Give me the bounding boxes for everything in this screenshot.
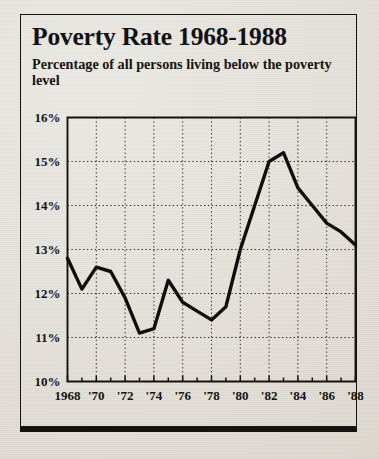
x-tick-label: '70: [88, 388, 105, 403]
x-tick-label: '74: [146, 388, 163, 403]
x-tick-label: '88: [347, 388, 364, 403]
y-tick-label: 14%: [35, 198, 61, 213]
x-tick-label: '82: [261, 388, 278, 403]
x-axis-tick-labels: 1968'70'72'74'76'78'80'82'84'86'88: [55, 388, 365, 403]
y-tick-label: 12%: [35, 286, 61, 301]
y-tick-label: 13%: [35, 242, 61, 257]
y-tick-label: 11%: [35, 330, 60, 345]
y-axis-tick-labels: 10%11%12%13%14%15%16%: [35, 110, 61, 389]
x-tick-label: '84: [290, 388, 307, 403]
x-tick-label: 1968: [55, 388, 82, 403]
y-tick-label: 16%: [35, 110, 61, 125]
y-tick-label: 15%: [35, 154, 61, 169]
x-tick-label: '80: [232, 388, 249, 403]
x-tick-label: '86: [318, 388, 335, 403]
poverty-rate-line-chart: 10%11%12%13%14%15%16% 1968'70'72'74'76'7…: [0, 0, 379, 459]
x-tick-label: '76: [174, 388, 191, 403]
chart-container: 10%11%12%13%14%15%16% 1968'70'72'74'76'7…: [0, 0, 379, 459]
x-tick-label: '78: [203, 388, 220, 403]
x-tick-label: '72: [117, 388, 134, 403]
